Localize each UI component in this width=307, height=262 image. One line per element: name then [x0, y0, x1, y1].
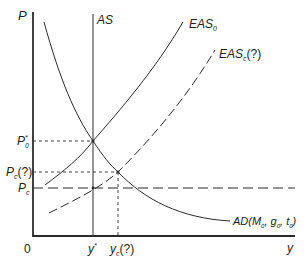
ad-curve	[44, 22, 230, 221]
equilibrium-point-c	[116, 170, 119, 173]
ad-label: AD(M0, g0, t0)	[232, 215, 297, 229]
easc-curve	[49, 50, 215, 213]
easc-label: EASc(?)	[219, 47, 261, 62]
pcq-label: Pc(?)	[6, 165, 32, 180]
eas0-curve	[45, 22, 183, 185]
origin-label: 0	[24, 242, 31, 256]
x-axis-label: y	[286, 241, 294, 255]
y-axis-label: P	[18, 8, 27, 23]
ystar-label: y*	[87, 242, 97, 256]
p0star-label: P0*	[17, 134, 29, 149]
ycq-label: yc(?)	[109, 242, 134, 257]
equilibrium-point-initial	[91, 139, 94, 142]
pc-label: Pc	[18, 181, 30, 196]
economic-diagram: P y 0 AS EAS0 EASc(?) AD(M0, g0, t0) P0*…	[0, 0, 307, 262]
eas0-label: EAS0	[189, 17, 217, 32]
as-label: AS	[96, 13, 113, 27]
as-pc-point	[92, 187, 95, 190]
